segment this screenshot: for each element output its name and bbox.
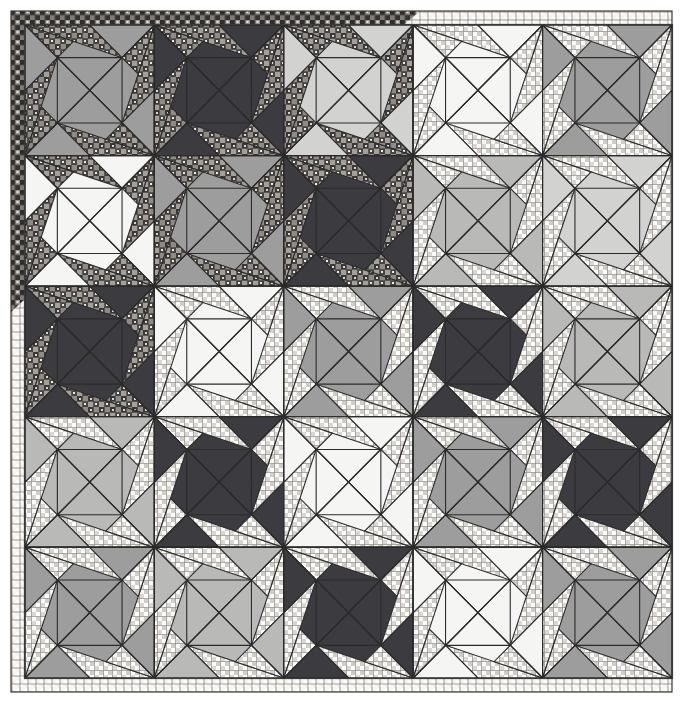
- quilt-block: [154, 25, 283, 156]
- quilt-block: [543, 286, 672, 417]
- quilt-block: [284, 286, 413, 417]
- quilt-block: [284, 25, 413, 156]
- quilt-block: [25, 417, 154, 548]
- quilt-block: [154, 547, 283, 678]
- quilt-canvas: [0, 0, 680, 703]
- quilt-block: [413, 25, 542, 156]
- quilt-block: [413, 547, 542, 678]
- quilt-block: [543, 156, 672, 287]
- quilt-block: [543, 25, 672, 156]
- quilt-block: [284, 156, 413, 287]
- quilt-block: [25, 25, 154, 156]
- quilt-block: [413, 286, 542, 417]
- quilt-photograph: Pieced Patchwork Quilt Photograph: [0, 0, 680, 703]
- quilt-block: [25, 156, 154, 287]
- quilt-block: [25, 547, 154, 678]
- quilt-block: [543, 417, 672, 548]
- quilt-block: [543, 547, 672, 678]
- quilt-block: [154, 286, 283, 417]
- quilt-block: [413, 156, 542, 287]
- quilt-block-field: [25, 25, 672, 678]
- quilt-block: [154, 417, 283, 548]
- quilt-block: [154, 156, 283, 287]
- quilt-block: [413, 417, 542, 548]
- quilt-block: [284, 547, 413, 678]
- quilt-block: [284, 417, 413, 548]
- quilt-block: [25, 286, 154, 417]
